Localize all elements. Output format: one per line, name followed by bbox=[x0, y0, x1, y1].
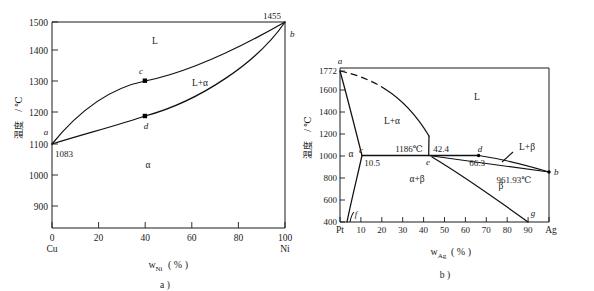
panel-a-point-d-label: d bbox=[144, 121, 149, 131]
panel-b-x-axis-label: w Ag ( % ) bbox=[430, 246, 471, 260]
panel-b-pt-ag: 400 600 800 1000 1200 1400 1600 1772 bbox=[297, 0, 594, 291]
panel-a-ytick-1500: 1500 bbox=[29, 18, 48, 28]
panel-a-point-c-label: c bbox=[139, 66, 143, 76]
panel-b-x-ticks bbox=[340, 217, 549, 222]
panel-a-xtick-0: 0 bbox=[50, 233, 55, 243]
panel-a-ytick-1100: 1100 bbox=[29, 140, 48, 150]
panel-a-xtick-60: 60 bbox=[187, 233, 197, 243]
panel-a-xtick-20: 20 bbox=[94, 233, 104, 243]
panel-a-region-liquid: L bbox=[152, 36, 158, 46]
panel-a-point-d-marker bbox=[143, 114, 147, 118]
panel-b-point-b-label: b bbox=[554, 167, 559, 177]
panel-b-eutectic-comp-label: 42.4 bbox=[433, 144, 449, 154]
panel-b-eutectic-temp-label: 1186℃ bbox=[395, 144, 423, 154]
panel-a-cu-ni: 900 1000 1100 1200 1300 1400 1500 0 20 4… bbox=[0, 0, 297, 291]
panel-a-endpoint-cu: Cu bbox=[46, 244, 57, 254]
panel-b-y-axis-label-cjk: 温度 bbox=[302, 141, 313, 159]
panel-a-ytick-900: 900 bbox=[34, 202, 49, 212]
panel-a-caption: a ) bbox=[160, 280, 170, 291]
panel-b-x-axis-label-tail: ( % ) bbox=[451, 246, 471, 258]
panel-a-xtick-40: 40 bbox=[140, 233, 150, 243]
panel-b-region-alpha: α bbox=[349, 149, 354, 159]
panel-a-y-axis-label-cjk: 温度 bbox=[13, 121, 24, 139]
panel-b-y-ticks bbox=[340, 71, 345, 222]
panel-a-x-axis-label-tail: ( % ) bbox=[168, 259, 188, 271]
panel-b-xtick-20: 20 bbox=[377, 225, 387, 235]
panel-b-point-d-marker bbox=[477, 154, 480, 157]
panel-b-point-f-label: f bbox=[355, 209, 359, 219]
panel-b-caption: b ) bbox=[440, 270, 450, 281]
panel-b-endpoint-pt: Pt bbox=[336, 225, 344, 235]
panel-b-ytick-1000: 1000 bbox=[319, 151, 338, 161]
panel-b-xtick-70: 70 bbox=[482, 225, 492, 235]
panel-b-solidus-alpha-curve bbox=[340, 71, 362, 156]
panel-b-xtick-90: 90 bbox=[524, 225, 534, 235]
panel-b-endpoint-ag: Ag bbox=[545, 225, 557, 235]
panel-a-y-axis-label-unit: / ℃ bbox=[14, 96, 24, 112]
panel-a-region-liquid-alpha: L+α bbox=[192, 78, 208, 88]
panel-a-x-axis-label-sub: Ni bbox=[156, 265, 163, 273]
panel-b-y-axis-label: 温度 / ℃ bbox=[302, 116, 313, 159]
panel-b-region-liquid: L bbox=[474, 92, 480, 102]
panel-b-y-axis-label-unit: / ℃ bbox=[303, 116, 313, 132]
panel-b-point-a-label: a bbox=[338, 56, 343, 66]
panel-b-xtick-80: 80 bbox=[503, 225, 513, 235]
panel-b-region-liquid-alpha: L+α bbox=[384, 116, 400, 126]
panel-b-point-e-label: e bbox=[426, 157, 430, 167]
panel-a-region-alpha: α bbox=[146, 160, 151, 170]
panel-b-liquidus-beta-curve bbox=[429, 156, 549, 173]
panel-b-point-c-label: c bbox=[359, 145, 363, 155]
panel-a-endpoint-ni: Ni bbox=[280, 244, 290, 254]
panel-a-xtick-80: 80 bbox=[234, 233, 244, 243]
panel-b-x-axis-label-sub: Ag bbox=[438, 252, 447, 260]
figure-container: 900 1000 1100 1200 1300 1400 1500 0 20 4… bbox=[0, 0, 594, 291]
panel-b-region-alpha-beta: α+β bbox=[409, 174, 424, 184]
panel-b-xtick-60: 60 bbox=[461, 225, 471, 235]
panel-b-xtick-30: 30 bbox=[398, 225, 408, 235]
panel-b-ytick-1400: 1400 bbox=[319, 107, 338, 117]
panel-b-f-tick-curve bbox=[350, 212, 354, 222]
panel-b-svg: 400 600 800 1000 1200 1400 1600 1772 bbox=[297, 0, 594, 291]
panel-b-region-beta: β bbox=[499, 181, 504, 191]
panel-a-x-axis-label: w Ni ( % ) bbox=[148, 259, 188, 273]
panel-b-xtick-50: 50 bbox=[440, 225, 450, 235]
panel-b-point-g-label: g bbox=[531, 208, 536, 218]
panel-b-region-liquid-beta: L+β bbox=[519, 142, 535, 152]
panel-b-liquidus-alpha-curve bbox=[385, 89, 429, 136]
panel-a-xtick-100: 100 bbox=[278, 233, 293, 243]
panel-b-liquidus-dashed-segment bbox=[340, 71, 385, 89]
panel-a-ytick-1000: 1000 bbox=[29, 171, 48, 181]
panel-b-point-b-marker bbox=[547, 170, 550, 173]
panel-b-ytick-1600: 1600 bbox=[319, 85, 338, 95]
panel-a-x-ticks bbox=[52, 222, 285, 228]
panel-a-point-b-label: b bbox=[290, 29, 295, 39]
panel-b-xtick-10: 10 bbox=[356, 225, 366, 235]
panel-b-beta-limit-label: 66.3 bbox=[469, 158, 485, 168]
panel-a-ytick-1400: 1400 bbox=[29, 46, 48, 56]
panel-a-svg: 900 1000 1100 1200 1300 1400 1500 0 20 4… bbox=[0, 0, 297, 291]
panel-a-y-axis-label: 温度 / ℃ bbox=[13, 96, 24, 139]
panel-a-ytick-1300: 1300 bbox=[29, 77, 48, 87]
panel-a-point-c-marker bbox=[143, 79, 147, 83]
panel-b-ytick-1772: 1772 bbox=[319, 66, 337, 76]
panel-a-ytick-1200: 1200 bbox=[29, 108, 48, 118]
panel-b-ytick-600: 600 bbox=[324, 195, 338, 205]
panel-b-alpha-limit-label: 10.5 bbox=[364, 158, 380, 168]
panel-a-point-a-label: a bbox=[44, 127, 49, 137]
panel-b-ytick-800: 800 bbox=[324, 173, 338, 183]
panel-a-value-1083: 1083 bbox=[55, 149, 74, 159]
panel-a-value-1455: 1455 bbox=[263, 11, 282, 21]
panel-a-liquidus-curve bbox=[52, 22, 285, 144]
panel-a-y-ticks bbox=[52, 22, 58, 206]
panel-b-ytick-1200: 1200 bbox=[319, 129, 338, 139]
panel-b-point-d-label: d bbox=[478, 144, 483, 154]
panel-b-xtick-40: 40 bbox=[419, 225, 429, 235]
